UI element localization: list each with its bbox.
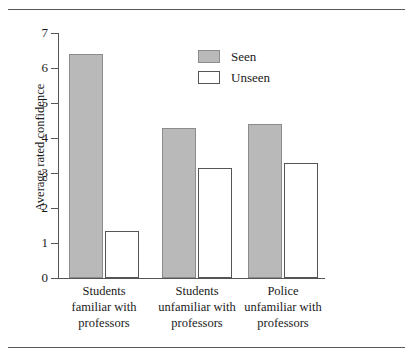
- y-axis-tick: [51, 103, 58, 104]
- x-axis-label-group-3: Policeunfamiliar withprofessors: [223, 283, 343, 331]
- legend-swatch-unseen-icon: [198, 71, 220, 84]
- y-axis-tick: [51, 208, 58, 209]
- y-axis-tick-label: 5: [8, 96, 48, 109]
- chart-legend: Seen Unseen: [198, 50, 270, 92]
- y-axis-tick: [51, 278, 58, 279]
- y-axis-tick: [51, 33, 58, 34]
- y-axis-tick-label: 2: [8, 201, 48, 214]
- bar-seen-group-2: [162, 128, 196, 279]
- y-axis-tick-label: 3: [8, 166, 48, 179]
- y-axis-tick-label: 7: [8, 26, 48, 39]
- y-axis-tick: [51, 68, 58, 69]
- plot-area: [58, 33, 325, 278]
- x-axis-label-line: professors: [223, 315, 343, 331]
- bar-seen-group-1: [69, 54, 103, 278]
- bar-unseen-group-1: [105, 231, 139, 278]
- bar-chart: Average rated confidence 76543210 Studen…: [0, 0, 413, 357]
- legend-item-seen: Seen: [198, 50, 270, 63]
- y-axis-tick-label: 0: [8, 271, 48, 284]
- x-axis-line: [58, 278, 325, 279]
- bar-unseen-group-3: [284, 163, 318, 279]
- y-axis-tick-label: 4: [8, 131, 48, 144]
- y-axis-title: Average rated confidence: [33, 48, 48, 248]
- legend-label-seen: Seen: [231, 50, 256, 63]
- y-axis-tick: [51, 173, 58, 174]
- bar-unseen-group-2: [198, 168, 232, 278]
- x-axis-label-line: Police: [223, 283, 343, 299]
- y-axis-tick: [51, 138, 58, 139]
- legend-item-unseen: Unseen: [198, 71, 270, 84]
- y-axis-tick-label: 6: [8, 61, 48, 74]
- y-axis-tick-label: 1: [8, 236, 48, 249]
- legend-swatch-seen-icon: [198, 50, 220, 63]
- y-axis-tick: [51, 243, 58, 244]
- bar-seen-group-3: [248, 124, 282, 278]
- x-axis-label-line: unfamiliar with: [223, 299, 343, 315]
- legend-label-unseen: Unseen: [231, 71, 270, 84]
